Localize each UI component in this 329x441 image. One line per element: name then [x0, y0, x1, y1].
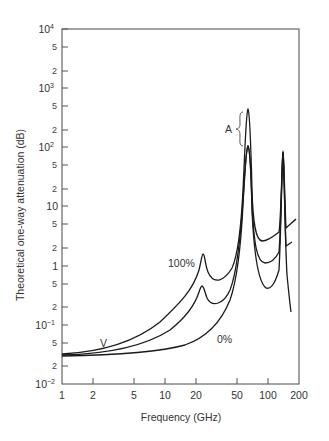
annotation-V: V: [100, 337, 107, 349]
attenuation-chart: 104 103 102 10 1 10−1 10−2 5 2 5 2 5 2 5…: [0, 0, 329, 441]
y-label-1e2: 102: [38, 141, 54, 153]
x-label: 50: [231, 389, 243, 401]
y-minor-label: 2: [52, 184, 57, 194]
y-label-1e4: 104: [38, 23, 54, 35]
y-label-10: 10: [46, 200, 58, 212]
curves: [62, 109, 296, 356]
annotation-0-percent: 0%: [217, 333, 232, 345]
x-axis: [93, 378, 268, 384]
y-label-1e-1: 10−1: [35, 319, 55, 331]
y-axis-title: Theoretical one-way attenuation (dB): [14, 129, 26, 301]
y-minor-label: 2: [52, 125, 57, 135]
y-minor-label: 2: [52, 243, 57, 253]
x-label: 100: [259, 389, 277, 401]
y-label-1e3: 103: [38, 82, 54, 94]
y-minor-label: 5: [52, 101, 57, 111]
y-label-1: 1: [52, 260, 58, 272]
y-label-1e-2: 10−2: [35, 378, 55, 390]
curve-50-percent: [62, 146, 292, 355]
x-label: 1: [59, 389, 65, 401]
annotation-A: A: [225, 123, 232, 135]
y-tick-labels: 104 103 102 10 1 10−1 10−2 5 2 5 2 5 2 5…: [35, 23, 58, 390]
y-minor-label: 2: [52, 361, 57, 371]
x-label: 5: [131, 389, 137, 401]
y-minor-label: 2: [52, 302, 57, 312]
brace-icon: [236, 112, 243, 146]
x-label: 10: [159, 389, 171, 401]
x-tick-labels: 1 2 5 10 20 50 100 200: [59, 389, 308, 401]
annotation-100-percent: 100%: [168, 257, 195, 269]
y-minor-label: 5: [52, 160, 57, 170]
x-label: 200: [290, 389, 308, 401]
y-minor-label: 5: [52, 338, 57, 348]
y-minor-label: 5: [52, 42, 57, 52]
x-label: 2: [90, 389, 96, 401]
x-label: 20: [190, 389, 202, 401]
y-minor-label: 5: [52, 219, 57, 229]
y-minor-label: 2: [52, 66, 57, 76]
x-axis-title: Frequency (GHz): [141, 411, 222, 423]
curve-100-percent: [62, 109, 296, 354]
y-minor-label: 5: [52, 279, 57, 289]
y-axis: [62, 29, 68, 366]
plot-frame: [62, 29, 299, 384]
